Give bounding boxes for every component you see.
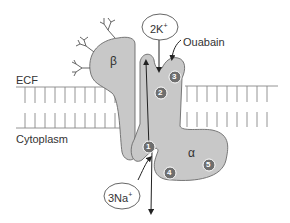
site-3-label: 3 [172, 73, 176, 81]
alpha-subunit-label: α [188, 147, 195, 159]
diagram-canvas [0, 0, 290, 223]
potassium-exit-arrow [151, 150, 152, 212]
site-5-label: 5 [206, 161, 210, 169]
potassium-charge: + [163, 22, 167, 29]
potassium-label: 2K+ [150, 22, 168, 35]
ouabain-arrow [172, 40, 181, 58]
ouabain-label: Ouabain [183, 37, 225, 48]
site-1-label: 1 [146, 143, 150, 151]
site-2-label: 2 [158, 89, 162, 97]
sodium-charge: + [128, 191, 132, 198]
sodium-text: 3Na [108, 192, 128, 204]
ecf-label: ECF [16, 75, 38, 86]
potassium-text: 2K [150, 23, 163, 35]
sodium-potassium-pump-diagram: ECF Cytoplasm β α Ouabain 2K+ 3Na+ 1 2 3… [0, 0, 290, 223]
beta-subunit-label: β [110, 55, 117, 67]
site-4-label: 4 [167, 169, 171, 177]
cytoplasm-label: Cytoplasm [16, 134, 68, 145]
sodium-label: 3Na+ [108, 191, 132, 204]
